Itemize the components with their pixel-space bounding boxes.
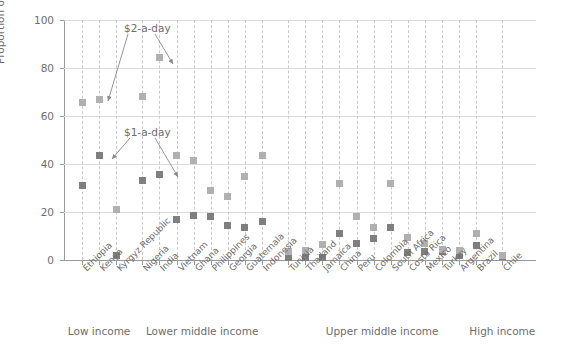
data-point [156,54,163,61]
data-point [336,180,343,187]
category-gridline-ghana [194,20,195,260]
data-point [241,173,248,180]
gridline-100 [64,20,536,21]
category-gridline-peru [357,20,358,260]
y-tick-label-100: 100 [14,15,54,25]
category-gridline-vietnam [177,20,178,260]
category-gridline-argentina [459,20,460,260]
gridline-80 [64,68,536,69]
data-point [259,152,266,159]
category-gridline-mexico [425,20,426,260]
y-tick-label-40: 40 [14,159,54,169]
data-point [173,216,180,223]
data-point [139,93,146,100]
y-tick-mark-20 [60,212,64,213]
data-point [336,230,343,237]
group-label-lower-middle-income: Lower middle income [122,325,282,337]
data-point [224,222,231,229]
gridline-40 [64,164,536,165]
chart-figure: Proportion of total population (%) 02040… [0,0,561,353]
data-point [113,206,120,213]
category-gridline-tunisia [288,20,289,260]
category-gridline-costa-rica [408,20,409,260]
y-tick-mark-100 [60,20,64,21]
y-axis-title: Proportion of total population (%) [0,0,6,64]
gridline-20 [64,212,536,213]
y-tick-label-60: 60 [14,111,54,121]
data-point [353,240,360,247]
category-gridline-kyrgyz-republic [116,20,117,260]
annotation-2-a-day: $2-a-day [124,22,171,34]
data-point [139,177,146,184]
data-point [96,152,103,159]
y-tick-mark-60 [60,116,64,117]
group-label-high-income: High income [422,325,561,337]
category-gridline-ethiopia [82,20,83,260]
annotation-1-a-day: $1-a-day [124,126,171,138]
gridline-60 [64,116,536,117]
data-point [156,171,163,178]
data-point [79,182,86,189]
y-tick-label-80: 80 [14,63,54,73]
category-gridline-nigeria [142,20,143,260]
data-point [387,180,394,187]
group-labels: Low incomeLower middle incomeUpper middl… [0,325,561,345]
data-point [190,157,197,164]
plot-area [64,20,536,260]
category-gridline-kenya [99,20,100,260]
data-point [259,218,266,225]
y-tick-mark-0 [60,260,64,261]
y-tick-label-20: 20 [14,207,54,217]
category-gridline-jamaica [322,20,323,260]
category-gridline-philippines [211,20,212,260]
data-point [207,213,214,220]
data-point [79,99,86,106]
data-point [224,193,231,200]
data-point [370,224,377,231]
data-point [190,212,197,219]
category-gridline-thailand [305,20,306,260]
data-point [241,224,248,231]
category-gridline-turkey [442,20,443,260]
data-point [96,96,103,103]
data-point [353,213,360,220]
y-axis-spine [64,20,65,261]
y-tick-mark-80 [60,68,64,69]
category-gridline-china [339,20,340,260]
data-point [173,152,180,159]
data-point [370,235,377,242]
data-point [473,230,480,237]
data-point [207,187,214,194]
data-point [387,224,394,231]
y-tick-label-0: 0 [14,255,54,265]
y-tick-mark-40 [60,164,64,165]
category-gridline-brazil [476,20,477,260]
category-gridline-chile [502,20,503,260]
x-axis-labels: EthiopiaKenyaKyrgyz RepublicNigeriaIndia… [64,266,536,321]
